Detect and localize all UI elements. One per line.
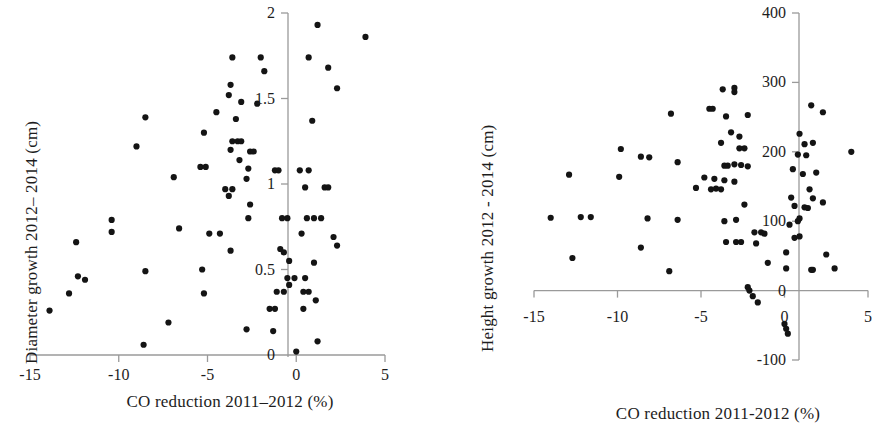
x-tick-label: 0 <box>292 366 300 384</box>
y-tick-label: 2 <box>215 4 275 22</box>
data-point <box>783 249 789 255</box>
y-tick-label: 1.5 <box>215 90 275 108</box>
x-tick-label: -10 <box>607 308 628 326</box>
data-point <box>247 201 253 207</box>
data-point <box>330 234 336 240</box>
data-point <box>765 260 771 266</box>
data-point <box>334 242 340 248</box>
data-point <box>311 215 317 221</box>
data-point <box>813 170 819 176</box>
data-point <box>293 348 299 354</box>
x-tick-label: 0 <box>781 308 789 326</box>
data-point <box>718 140 724 146</box>
data-point <box>805 205 811 211</box>
data-point <box>668 111 674 117</box>
x-tick-label: -15 <box>19 366 40 384</box>
data-point <box>300 306 306 312</box>
data-point <box>362 34 368 40</box>
data-point <box>206 230 212 236</box>
data-point <box>306 289 312 295</box>
data-point <box>693 185 699 191</box>
data-point <box>806 186 812 192</box>
data-point <box>803 152 809 158</box>
x-tick-label: -10 <box>108 366 129 384</box>
x-tick-label: 5 <box>381 366 389 384</box>
data-point <box>199 266 205 272</box>
data-point <box>236 157 242 163</box>
data-point <box>267 306 273 312</box>
data-point <box>810 140 816 146</box>
data-point <box>796 215 802 221</box>
scatter-points <box>46 22 368 355</box>
data-point <box>785 331 791 337</box>
data-point <box>786 222 792 228</box>
data-point <box>82 277 88 283</box>
x-axis-title: CO reduction 2011–2012 (%) <box>60 392 400 412</box>
data-point <box>203 164 209 170</box>
data-point <box>711 176 717 182</box>
data-point <box>229 54 235 60</box>
data-point <box>795 151 801 157</box>
data-point <box>251 148 257 154</box>
data-point <box>783 265 789 271</box>
x-tick-label: -5 <box>201 366 214 384</box>
data-point <box>745 112 751 118</box>
data-point <box>832 265 838 271</box>
data-point <box>270 328 276 334</box>
data-point <box>141 342 147 348</box>
data-point <box>133 143 139 149</box>
scatter-points <box>548 85 855 337</box>
data-point <box>710 106 716 112</box>
height-growth-plot-area <box>448 0 896 436</box>
data-point <box>800 171 806 177</box>
data-point <box>820 199 826 205</box>
data-point <box>245 166 251 172</box>
data-point <box>142 114 148 120</box>
data-point <box>675 159 681 165</box>
data-point <box>718 186 724 192</box>
y-tick-label: -100 <box>726 351 786 369</box>
data-point <box>810 195 816 201</box>
data-point <box>201 290 207 296</box>
data-point <box>272 306 278 312</box>
data-point <box>243 326 249 332</box>
data-point <box>820 109 826 115</box>
data-point <box>275 167 281 173</box>
data-point <box>720 86 726 92</box>
data-point <box>261 68 267 74</box>
data-point <box>675 217 681 223</box>
data-point <box>796 131 802 137</box>
data-point <box>823 251 829 257</box>
data-point <box>548 215 554 221</box>
data-point <box>302 275 308 281</box>
diameter-growth-panel: Diameter growth 2012– 2014 (cm) CO reduc… <box>0 0 448 436</box>
data-point <box>311 260 317 266</box>
data-point <box>201 130 207 136</box>
data-point <box>229 138 235 144</box>
y-axis-title: Height growth 2012 - 2014 (cm) <box>478 125 498 352</box>
data-point <box>808 102 814 108</box>
data-point <box>325 184 331 190</box>
data-point <box>313 297 319 303</box>
data-point <box>197 164 203 170</box>
y-tick-label: 400 <box>726 4 786 22</box>
data-point <box>725 163 731 169</box>
data-point <box>233 116 239 122</box>
data-point <box>736 133 742 139</box>
data-point <box>731 161 737 167</box>
data-point <box>171 174 177 180</box>
data-point <box>728 129 734 135</box>
data-point <box>281 289 287 295</box>
data-point <box>616 174 622 180</box>
data-point <box>309 118 315 124</box>
data-point <box>213 109 219 115</box>
data-point <box>281 249 287 255</box>
data-point <box>109 217 115 223</box>
data-point <box>304 215 310 221</box>
data-point <box>298 230 304 236</box>
data-point <box>302 184 308 190</box>
data-point <box>217 230 223 236</box>
data-point <box>284 215 290 221</box>
data-point <box>638 154 644 160</box>
data-point <box>318 215 324 221</box>
